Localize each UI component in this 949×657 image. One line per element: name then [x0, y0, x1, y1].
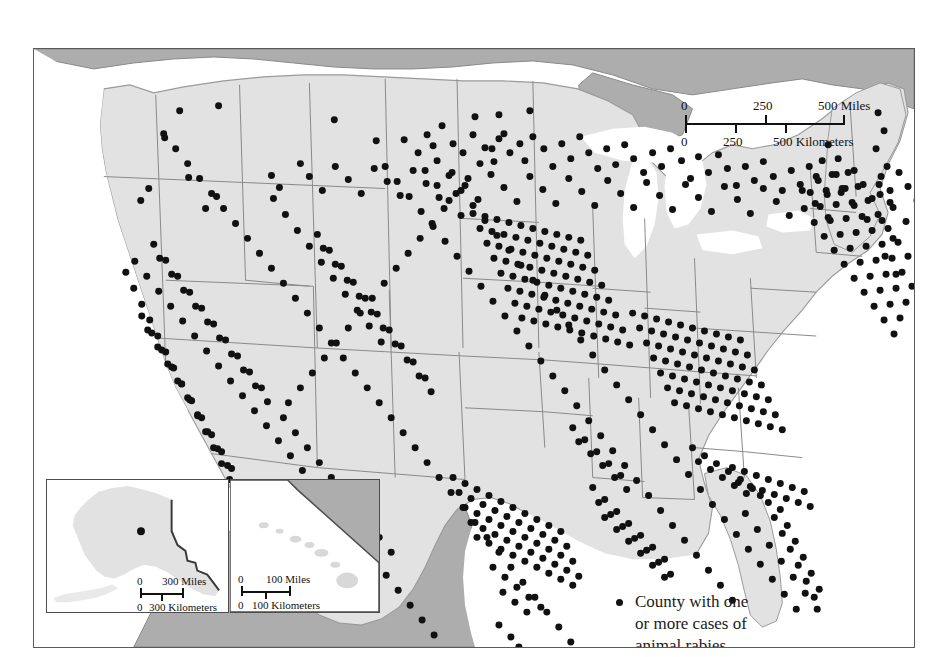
- county-dot: [769, 576, 776, 583]
- county-dot: [801, 205, 808, 212]
- county-dot: [542, 321, 549, 328]
- county-dot: [439, 122, 446, 129]
- county-dot: [725, 334, 732, 341]
- county-dot: [487, 171, 494, 178]
- county-dot: [649, 426, 656, 433]
- county-dot: [621, 462, 628, 469]
- county-dot: [890, 235, 897, 242]
- county-dot: [215, 362, 222, 369]
- county-dot: [855, 183, 862, 190]
- county-dot: [228, 350, 235, 357]
- county-dot: [617, 190, 624, 197]
- county-dot: [557, 552, 564, 559]
- county-dot: [509, 552, 516, 559]
- county-dot: [667, 571, 674, 578]
- county-dot: [280, 280, 287, 287]
- county-dot: [671, 399, 678, 406]
- county-dot: [345, 176, 352, 183]
- county-dot: [737, 476, 744, 483]
- county-dot: [505, 247, 512, 254]
- county-dot: [896, 169, 903, 176]
- county-dot: [495, 243, 502, 250]
- county-dot: [287, 452, 294, 459]
- county-dot: [807, 503, 814, 510]
- county-dot: [481, 144, 488, 151]
- county-dot: [612, 312, 619, 319]
- county-dot: [553, 307, 560, 314]
- county-dot: [881, 127, 888, 134]
- hawaii-scale-tick-0: [241, 586, 243, 596]
- county-dot: [468, 495, 475, 502]
- county-dot: [458, 212, 465, 219]
- county-dot: [297, 160, 304, 167]
- county-dot: [567, 155, 574, 162]
- county-dot: [875, 109, 882, 116]
- county-dot: [801, 488, 808, 495]
- county-dot: [733, 182, 740, 189]
- county-dot: [693, 552, 700, 559]
- county-dot: [210, 321, 217, 328]
- county-dot: [270, 195, 277, 202]
- county-dot: [621, 141, 628, 148]
- county-dot: [552, 297, 559, 304]
- county-dot: [681, 537, 688, 544]
- county-dot: [777, 506, 784, 513]
- county-dot: [500, 231, 507, 238]
- county-dot: [314, 231, 321, 238]
- county-dot: [637, 411, 644, 418]
- county-dot: [450, 474, 457, 481]
- county-dot: [516, 288, 523, 295]
- county-dot: [565, 234, 572, 241]
- county-dot: [884, 163, 891, 170]
- county-dot: [835, 155, 842, 162]
- county-dot: [392, 341, 399, 348]
- county-dot: [180, 287, 187, 294]
- county-dot: [591, 267, 598, 274]
- county-dot: [333, 340, 340, 347]
- county-dot: [509, 273, 516, 280]
- county-dot: [673, 456, 680, 463]
- county-dot: [410, 167, 417, 174]
- county-dot: [765, 476, 772, 483]
- county-dot: [667, 145, 674, 152]
- county-dot: [366, 323, 373, 330]
- county-dot: [703, 354, 710, 361]
- county-dot: [505, 219, 512, 226]
- county-dot: [395, 587, 402, 594]
- county-dot: [436, 194, 443, 201]
- county-dot: [474, 196, 481, 203]
- county-dot: [545, 282, 552, 289]
- county-dot: [576, 133, 583, 140]
- county-dot: [575, 573, 582, 580]
- county-dot: [601, 496, 608, 503]
- county-dot: [787, 546, 794, 553]
- county-dot: [383, 572, 390, 579]
- county-dot: [515, 519, 522, 526]
- county-dot: [450, 140, 457, 147]
- county-dot: [316, 459, 323, 466]
- county-dot: [881, 317, 888, 324]
- county-dot: [578, 330, 585, 337]
- county-dot: [356, 293, 363, 300]
- county-dot: [877, 287, 884, 294]
- county-dot: [833, 201, 840, 208]
- county-dot: [416, 372, 423, 379]
- county-dot: [386, 327, 393, 334]
- county-dot: [202, 205, 209, 212]
- county-dot: [629, 310, 636, 317]
- county-dot: [423, 180, 430, 187]
- county-dot: [899, 269, 906, 276]
- county-dot: [878, 173, 885, 180]
- county-dot: [515, 543, 522, 550]
- county-dot: [485, 540, 492, 547]
- county-dot: [521, 510, 528, 517]
- county-dot: [744, 351, 751, 358]
- county-dot: [380, 325, 387, 332]
- county-dot: [430, 223, 437, 230]
- county-dot: [667, 346, 674, 353]
- county-dot: [485, 516, 492, 523]
- county-dot: [773, 198, 780, 205]
- county-dot: [595, 499, 602, 506]
- county-dot: [585, 149, 592, 156]
- county-dot: [406, 193, 413, 200]
